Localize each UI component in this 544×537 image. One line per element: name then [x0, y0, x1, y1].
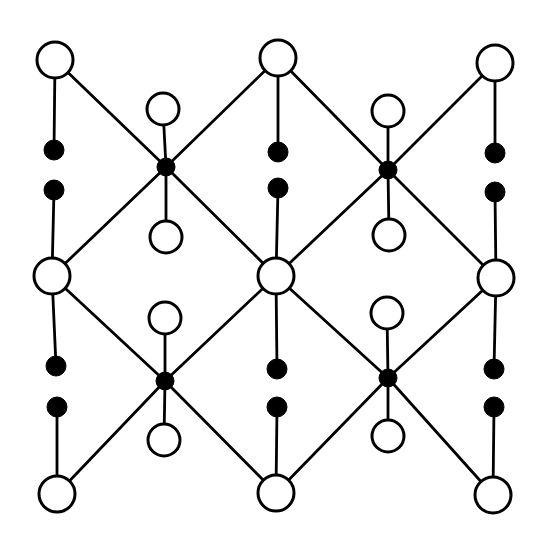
filled-dot [44, 180, 64, 200]
filled-dot [268, 178, 288, 198]
diagonal-bond [165, 381, 276, 493]
filled-dot [267, 359, 287, 379]
large-open-circle [258, 258, 294, 294]
filled-dot [46, 356, 66, 376]
small-open-circle [373, 219, 405, 251]
large-open-circle [478, 260, 514, 296]
lattice-diagram [0, 0, 544, 537]
junction-atom [379, 161, 397, 179]
large-open-circle [39, 476, 75, 512]
junction-atom [157, 158, 175, 176]
filled-dot [485, 143, 505, 163]
diagonal-bond [166, 58, 278, 167]
diagonal-bond [276, 276, 388, 378]
junction-atom [156, 372, 174, 390]
large-open-circle [477, 45, 513, 81]
diagonal-bond [52, 167, 166, 276]
large-open-circle [34, 258, 70, 294]
small-open-circle [372, 95, 404, 127]
diagonal-bond [166, 167, 276, 276]
filled-dot [268, 142, 288, 162]
filled-dot [44, 140, 64, 160]
large-open-circle [475, 477, 511, 513]
large-open-circle [37, 42, 73, 78]
small-open-circle [149, 302, 181, 334]
small-open-circle [372, 420, 404, 452]
filled-dot [484, 359, 504, 379]
filled-dot [485, 182, 505, 202]
filled-dot [267, 397, 287, 417]
small-open-circle [371, 297, 403, 329]
junction-atom [379, 369, 397, 387]
large-open-circle [260, 40, 296, 76]
diagonal-bond [388, 278, 496, 378]
diagonal-bond [165, 276, 276, 381]
diagonal-bond [52, 276, 165, 381]
diagonal-bond [276, 170, 388, 276]
small-open-circle [147, 93, 179, 125]
filled-dot [47, 397, 67, 417]
small-open-circle [148, 424, 180, 456]
small-open-circle [150, 221, 182, 253]
large-open-circle [258, 475, 294, 511]
filled-dot [484, 397, 504, 417]
diagonal-bond [388, 170, 496, 278]
